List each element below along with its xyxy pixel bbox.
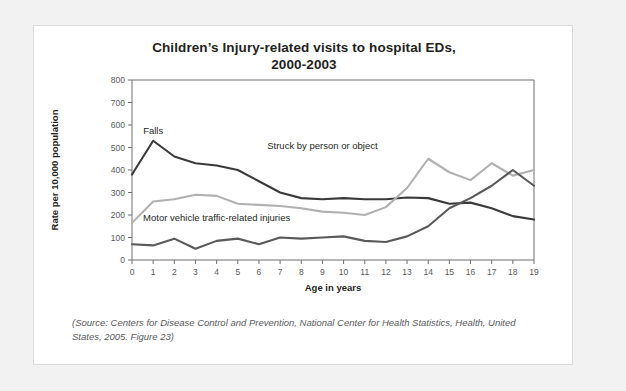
x-tick-label: 7 [278, 267, 283, 277]
x-tick-label: 3 [193, 267, 198, 277]
series-line-2 [132, 170, 534, 249]
x-tick-label: 4 [214, 267, 219, 277]
series-label-2: Motor vehicle traffic-related injuries [143, 212, 290, 223]
x-tick-label: 17 [487, 267, 497, 277]
plot-frame [132, 80, 534, 260]
y-tick-label: 300 [111, 188, 125, 198]
y-tick-label: 600 [111, 120, 125, 130]
chart-title: Children’s Injury-related visits to hosp… [34, 39, 574, 73]
y-tick-label: 800 [111, 75, 125, 85]
x-tick-label: 10 [339, 267, 349, 277]
x-tick-label: 15 [445, 267, 455, 277]
x-tick-label: 5 [235, 267, 240, 277]
x-tick-label: 1 [151, 267, 156, 277]
x-tick-label: 0 [130, 267, 135, 277]
x-axis-title: Age in years [305, 282, 362, 293]
x-tick-label: 13 [402, 267, 412, 277]
figure-caption: (Source: Centers for Disease Control and… [72, 316, 542, 344]
plot-area: 0100200300400500600700800012345678910111… [34, 70, 574, 308]
series-label-1: Struck by person or object [267, 140, 378, 151]
x-tick-label: 6 [257, 267, 262, 277]
x-tick-label: 8 [299, 267, 304, 277]
x-tick-label: 2 [172, 267, 177, 277]
y-tick-label: 400 [111, 165, 125, 175]
chart-title-line-1: Children’s Injury-related visits to hosp… [34, 39, 574, 56]
y-axis-title: Rate per 10,000 population [49, 109, 60, 230]
y-tick-label: 200 [111, 210, 125, 220]
x-tick-label: 18 [508, 267, 518, 277]
y-tick-label: 0 [120, 255, 125, 265]
y-tick-label: 500 [111, 143, 125, 153]
y-tick-label: 700 [111, 98, 125, 108]
line-chart: 0100200300400500600700800012345678910111… [34, 70, 574, 308]
x-tick-label: 9 [320, 267, 325, 277]
y-tick-label: 100 [111, 233, 125, 243]
series-line-0 [132, 141, 534, 220]
series-label-0: Falls [143, 125, 163, 136]
x-tick-label: 16 [466, 267, 476, 277]
x-tick-label: 12 [381, 267, 391, 277]
x-tick-label: 19 [529, 267, 539, 277]
figure-card: Children’s Injury-related visits to hosp… [33, 25, 573, 365]
x-tick-label: 14 [423, 267, 433, 277]
x-tick-label: 11 [360, 267, 369, 277]
